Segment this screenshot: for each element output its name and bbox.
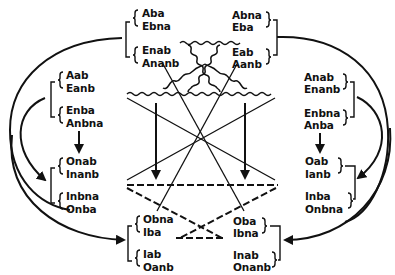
bracket-bottom-right bbox=[262, 218, 280, 267]
diagram-canvas bbox=[0, 0, 395, 275]
label-anbna: Anbna bbox=[66, 117, 103, 130]
label-obna: Obna bbox=[143, 213, 174, 226]
label-eba: Eba bbox=[232, 21, 253, 34]
dashed-diag-right bbox=[180, 188, 276, 238]
solid-line-3 bbox=[163, 64, 244, 211]
label-anba: Anba bbox=[304, 119, 334, 132]
label-inba: Inba bbox=[305, 190, 331, 203]
bracket-top-right bbox=[266, 12, 277, 64]
label-aba: Aba bbox=[142, 7, 164, 20]
label-ananb: Ananb bbox=[142, 57, 179, 70]
label-iba: Iba bbox=[143, 226, 161, 239]
label-onbna: Onbna bbox=[305, 203, 343, 216]
wavy-long-horizontal bbox=[127, 93, 271, 96]
label-aab: Aab bbox=[66, 69, 88, 82]
label-ebna: Ebna bbox=[142, 20, 171, 33]
curve-mid-right-to-lower-right bbox=[357, 97, 382, 178]
label-aanb: Aanb bbox=[232, 58, 262, 71]
label-oanb: Oanb bbox=[143, 261, 174, 274]
curve-mid-left-to-lower-left bbox=[21, 98, 45, 180]
bracket-lower-left bbox=[51, 158, 63, 209]
label-ianb: Ianb bbox=[305, 168, 331, 181]
wavy-top-short bbox=[180, 42, 240, 45]
dashed-diag-left bbox=[127, 188, 222, 238]
bracket-top-left bbox=[126, 10, 138, 63]
label-enanb: Enanb bbox=[304, 83, 340, 96]
label-inanb: Inanb bbox=[66, 168, 99, 181]
label-enba: Enba bbox=[66, 104, 95, 117]
label-eanb: Eanb bbox=[66, 82, 95, 95]
curve-right-to-bottom-right bbox=[285, 128, 390, 240]
label-inbna: Inbna bbox=[66, 190, 99, 203]
bracket-mid-right bbox=[343, 74, 354, 125]
label-onba: Onba bbox=[66, 203, 97, 216]
label-enab: Enab bbox=[142, 44, 171, 57]
bracket-mid-left bbox=[51, 72, 63, 123]
bracket-lower-right bbox=[338, 158, 355, 208]
bracket-bottom-left bbox=[128, 216, 140, 266]
label-onanb: Onanb bbox=[233, 261, 271, 274]
label-onab: Onab bbox=[66, 155, 97, 168]
label-ibna: Ibna bbox=[233, 227, 259, 240]
label-oab: Oab bbox=[305, 155, 328, 168]
label-iab: Iab bbox=[143, 248, 161, 261]
